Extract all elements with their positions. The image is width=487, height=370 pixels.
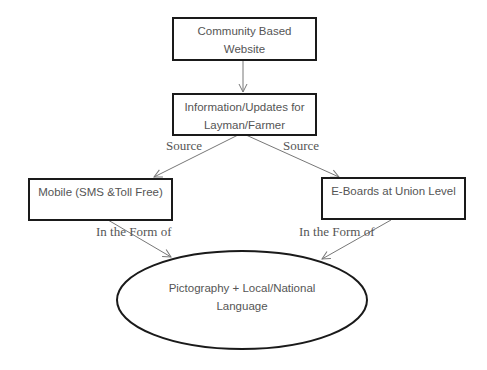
node-label: Pictography + Local/National xyxy=(142,279,342,297)
node-label: Information/Updates for xyxy=(174,98,315,116)
node-community-website: Community Based Website xyxy=(172,17,317,61)
node-label: Layman/Farmer xyxy=(174,116,315,134)
node-label: Mobile (SMS &Toll Free) xyxy=(30,183,171,201)
edge-label-source-right: Source xyxy=(283,138,319,154)
edge-label-form-left: In the Form of xyxy=(96,224,171,240)
node-information-updates: Information/Updates for Layman/Farmer xyxy=(172,93,317,136)
node-label: Community Based xyxy=(174,22,315,40)
node-pictography-text: Pictography + Local/National Language xyxy=(142,279,342,315)
node-label: Language xyxy=(142,297,342,315)
edge-label-source-left: Source xyxy=(166,138,202,154)
node-label: E-Boards at Union Level xyxy=(323,182,464,200)
edge-label-form-right: In the Form of xyxy=(299,224,374,240)
node-eboards: E-Boards at Union Level xyxy=(321,177,466,220)
node-mobile: Mobile (SMS &Toll Free) xyxy=(28,178,173,221)
node-label: Website xyxy=(174,40,315,58)
